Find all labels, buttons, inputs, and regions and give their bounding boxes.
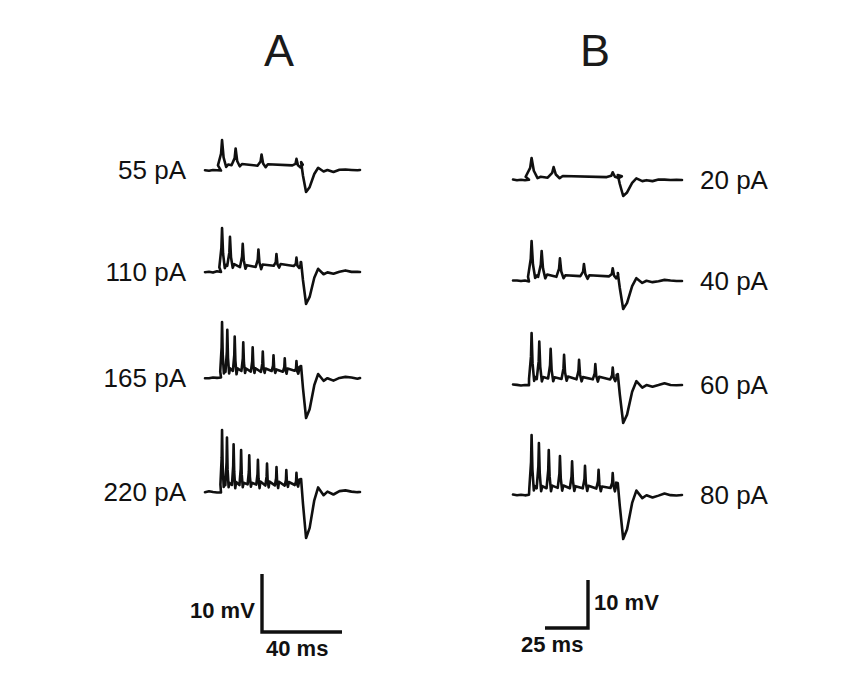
voltage-trace: [513, 435, 682, 539]
scalebar-b-time-label: 25 ms: [521, 634, 583, 656]
voltage-trace: [513, 241, 682, 309]
panel-label-a: A: [264, 28, 294, 73]
trace-label-110pa: 110 pA: [106, 259, 186, 285]
trace-label-40pa: 40 pA: [700, 268, 768, 294]
trace-label-80pa: 80 pA: [700, 482, 768, 508]
scalebar-panel-b: [545, 580, 588, 628]
voltage-trace: [513, 158, 682, 196]
trace-label-60pa: 60 pA: [700, 372, 768, 398]
scalebar-b-voltage-label: 10 mV: [594, 592, 659, 614]
voltage-trace: [205, 430, 360, 538]
panel-label-b: B: [580, 28, 610, 73]
trace-label-220pa: 220 pA: [104, 479, 186, 505]
trace-label-165pa: 165 pA: [104, 365, 186, 391]
trace-label-20pa: 20 pA: [700, 167, 768, 193]
voltage-trace: [205, 140, 360, 192]
voltage-trace: [205, 228, 360, 304]
electrophysiology-figure: A B 55 pA110 pA165 pA220 pA 20 pA40 pA60…: [0, 0, 864, 697]
scalebar-a-time-label: 40 ms: [266, 638, 328, 660]
scalebar-a-voltage-label: 10 mV: [190, 600, 255, 622]
voltage-trace: [513, 333, 682, 423]
trace-canvas: [0, 0, 864, 697]
voltage-trace: [205, 322, 360, 418]
scalebar-panel-a: [262, 574, 342, 632]
trace-label-55pa: 55 pA: [118, 157, 186, 183]
